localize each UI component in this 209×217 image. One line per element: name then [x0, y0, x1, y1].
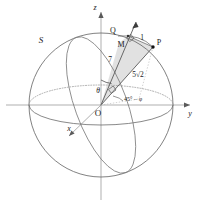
point-m-marker — [127, 35, 129, 37]
label-sphere-s: S — [39, 35, 44, 45]
z-axis-arrowhead — [98, 12, 103, 18]
label-length-mq: 1 — [140, 33, 144, 42]
label-angle-theta: θ — [96, 86, 100, 95]
label-angle-azimuth: 45° − φ — [124, 96, 143, 102]
label-origin-o: O — [95, 108, 102, 118]
label-point-p: P — [157, 38, 162, 47]
point-p-marker — [151, 45, 154, 48]
geometry-figure: z y x S O Q M P 7 1 5√2 θ 45° − φ — [0, 0, 209, 217]
label-length-om: 7 — [108, 55, 112, 64]
axis-label-z: z — [92, 3, 97, 12]
angle-arc-azimuth — [113, 96, 123, 101]
label-length-op: 5√2 — [132, 70, 144, 79]
axis-label-x: x — [66, 124, 71, 133]
label-point-q: Q — [110, 26, 116, 35]
axis-label-y: y — [187, 109, 192, 118]
shaded-sector — [101, 36, 153, 105]
y-axis-arrowhead — [184, 102, 190, 107]
label-point-m: M — [117, 40, 124, 49]
sphere-diagram-canvas: z y x S O Q M P 7 1 5√2 θ 45° − φ — [0, 0, 209, 217]
